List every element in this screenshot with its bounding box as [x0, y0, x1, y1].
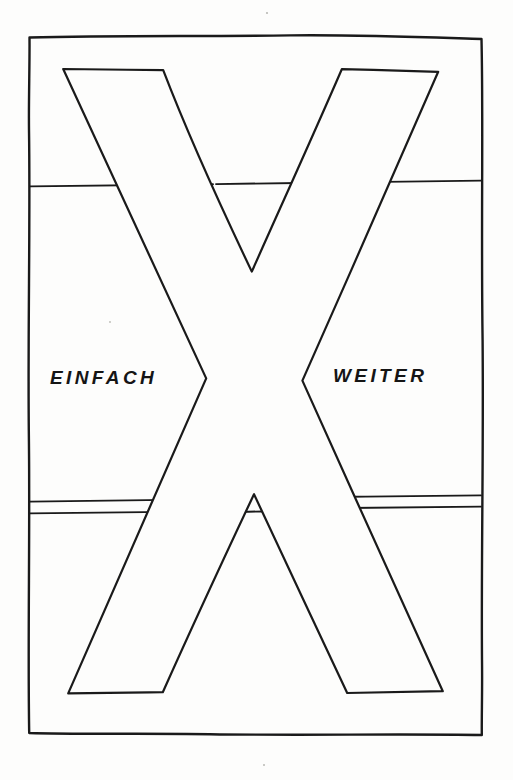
- sketch-page: EINFACH WEITER: [0, 0, 513, 780]
- paper-speck: [263, 764, 265, 766]
- caption-einfach: EINFACH: [50, 367, 157, 388]
- paper-speck: [109, 321, 111, 323]
- sketch-canvas: EINFACH WEITER: [0, 0, 513, 780]
- upper-band-middle-segment: [216, 183, 298, 184]
- upper-band-right-segment: [385, 181, 481, 182]
- paper-speck: [266, 12, 268, 14]
- caption-weiter: WEITER: [333, 365, 427, 386]
